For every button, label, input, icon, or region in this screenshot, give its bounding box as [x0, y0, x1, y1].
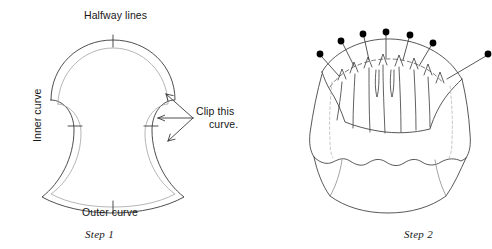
fold-crease — [369, 68, 370, 132]
pin — [317, 51, 339, 76]
step1-outline — [42, 40, 184, 213]
step2-scalloped-hem — [314, 157, 466, 166]
pin — [447, 51, 491, 79]
step2-drape-shadow-right — [449, 86, 452, 158]
step2-drape-right-edge — [462, 79, 470, 158]
fold-crease — [353, 74, 355, 128]
step1-seam-allowance-line — [51, 48, 175, 207]
fold-crease — [414, 70, 416, 130]
step2-lower-fan-panel — [314, 157, 466, 213]
fold-crease — [337, 82, 342, 120]
label-halfway-lines: Halfway lines — [84, 9, 147, 22]
gather-dart — [390, 70, 394, 97]
pin — [338, 38, 354, 66]
sewing-diagram — [0, 0, 492, 249]
label-clip-this-curve: Clip this curve. — [196, 105, 238, 130]
clip-notch — [350, 62, 358, 73]
fold-crease — [399, 67, 401, 132]
clip-label-line-1: Clip this — [196, 105, 238, 118]
step2-fold-creases — [337, 65, 430, 133]
caption-step-1: Step 1 — [85, 228, 114, 240]
step2-assembly — [310, 29, 492, 213]
step2-gather-darts — [375, 70, 394, 97]
clip-arrow-group — [158, 94, 193, 141]
label-inner-curve: Inner curve — [31, 76, 44, 154]
fold-crease — [383, 65, 385, 133]
step2-lower-fan-left-seam — [330, 160, 342, 196]
fold-crease — [428, 77, 430, 127]
caption-step-2: Step 2 — [404, 228, 433, 240]
clip-notch — [436, 72, 444, 83]
step2-lower-fan-right-seam — [435, 160, 446, 196]
step2-drape-left-edge — [310, 74, 322, 157]
clip-arrow-upper — [166, 94, 193, 118]
clip-label-line-2: curve. — [196, 118, 238, 131]
step1-pattern-piece — [42, 35, 193, 213]
step2-upper-panel-outline — [322, 39, 462, 133]
pin — [419, 40, 436, 66]
step1-halfway-ticks — [68, 35, 158, 213]
gather-dart — [375, 70, 379, 97]
clip-arrow-middle — [158, 115, 193, 121]
pin — [383, 29, 390, 58]
pin — [360, 31, 369, 60]
clip-arrow-lower — [168, 118, 193, 141]
clip-notch — [395, 55, 403, 66]
pin — [403, 32, 413, 60]
label-outer-curve: Outer curve — [82, 206, 138, 219]
